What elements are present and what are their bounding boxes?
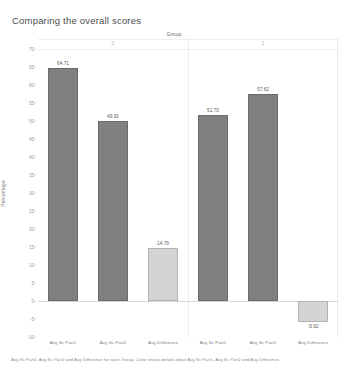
group-pane-0: 64.7149.9114.79 xyxy=(38,49,188,337)
x-label-avg-difference-g0: Avg Difference xyxy=(138,340,188,352)
bar-value-label: 51.70 xyxy=(207,108,219,113)
x-axis-pane-0: Avg Sc Part1 Avg Sc Part2 Avg Difference xyxy=(38,340,188,352)
y-tick-mark xyxy=(34,211,36,212)
bar-1-avg-sc-part1[interactable] xyxy=(198,115,228,301)
bar-value-label: 64.71 xyxy=(57,61,69,66)
bar-slot: 64.71 xyxy=(38,49,88,337)
y-tick-mark xyxy=(34,175,36,176)
x-axis-labels: Avg Sc Part1 Avg Sc Part2 Avg Difference… xyxy=(38,340,338,352)
bar-slot: 14.79 xyxy=(138,49,188,337)
y-tick-mark xyxy=(34,85,36,86)
y-tick-mark xyxy=(34,283,36,284)
x-label-avg-sc-part1-g0: Avg Sc Part1 xyxy=(38,340,88,352)
y-tick-mark xyxy=(34,337,36,338)
group-pane-1: 51.7057.62-5.92 xyxy=(188,49,338,337)
plot-area: 64.7149.9114.79 51.7057.62-5.92 xyxy=(38,49,338,337)
group-header-0: 0 xyxy=(38,38,188,48)
bar-slot: 51.70 xyxy=(188,49,238,337)
y-tick-label-neg10: -10 xyxy=(27,335,34,340)
y-tick-mark xyxy=(34,49,36,50)
y-axis-ticks: 7065605550454035302520151050-5-10 xyxy=(14,49,36,337)
y-tick-mark xyxy=(34,103,36,104)
group-header-1: 1 xyxy=(188,38,338,48)
column-field-label: Group xyxy=(0,31,348,37)
bar-0-avg-sc-part1[interactable] xyxy=(48,68,78,301)
y-tick-mark xyxy=(34,265,36,266)
bar-0-avg-sc-part2[interactable] xyxy=(98,121,128,301)
bar-value-label: -5.92 xyxy=(308,324,319,329)
y-tick-mark xyxy=(34,229,36,230)
bar-1-avg-sc-part2[interactable] xyxy=(248,94,278,301)
bar-slot: 49.91 xyxy=(88,49,138,337)
x-label-avg-sc-part2-g1: Avg Sc Part2 xyxy=(238,340,288,352)
bar-1-avg-difference[interactable] xyxy=(298,301,328,322)
y-tick-mark xyxy=(34,157,36,158)
x-label-avg-sc-part2-g0: Avg Sc Part2 xyxy=(88,340,138,352)
y-axis-title-text: Percentage xyxy=(1,180,6,207)
bar-slot: 57.62 xyxy=(238,49,288,337)
x-axis-pane-1: Avg Sc Part1 Avg Sc Part2 Avg Difference xyxy=(188,340,338,352)
y-axis-title: Percentage xyxy=(0,49,8,337)
x-label-avg-sc-part1-g1: Avg Sc Part1 xyxy=(188,340,238,352)
y-tick-mark xyxy=(34,121,36,122)
y-tick-mark xyxy=(34,247,36,248)
bar-value-label: 14.79 xyxy=(157,241,169,246)
bar-0-avg-difference[interactable] xyxy=(148,248,178,301)
page-title: Comparing the overall scores xyxy=(12,15,141,26)
bar-value-label: 57.62 xyxy=(257,87,269,92)
x-label-avg-difference-g1: Avg Difference xyxy=(288,340,338,352)
y-tick-mark xyxy=(34,319,36,320)
y-tick-mark xyxy=(34,139,36,140)
chart-caption: Avg Sc Part1, Avg Sc Part2 and Avg Diffe… xyxy=(11,357,339,364)
y-tick-mark xyxy=(34,67,36,68)
bar-value-label: 49.91 xyxy=(107,114,119,119)
y-tick-mark xyxy=(34,193,36,194)
y-tick-mark xyxy=(34,301,36,302)
bar-slot: -5.92 xyxy=(288,49,338,337)
